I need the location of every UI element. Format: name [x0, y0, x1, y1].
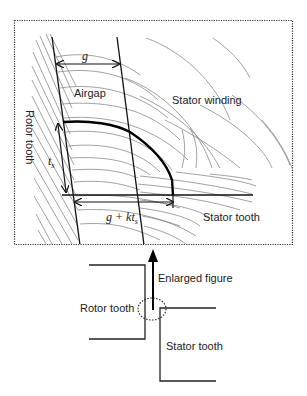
rotor-tooth-label: Rotor tooth — [80, 302, 134, 314]
stator-tooth-label-enlarged: Stator tooth — [203, 211, 260, 223]
ts-symbol-label: ts — [48, 154, 54, 170]
diagram-canvas: g Airgap Stator winding Rotor tooth ts g… — [0, 0, 307, 396]
stator-winding-label: Stator winding — [172, 94, 242, 106]
gap-symbol-label: g — [82, 49, 88, 63]
overview-sketch: Enlarged figure Rotor tooth Stator tooth — [80, 265, 233, 381]
stator-tooth-label: Stator tooth — [166, 340, 223, 352]
rotor-tooth-label-enlarged: Rotor tooth — [24, 110, 36, 164]
enlarged-figure: g Airgap Stator winding Rotor tooth ts g… — [24, 34, 292, 245]
stator-tooth-hatching — [138, 172, 256, 244]
enlarged-figure-label: Enlarged figure — [158, 272, 233, 284]
flux-lines — [56, 38, 292, 240]
extended-gap-label: g + kts — [106, 210, 138, 226]
airgap-label: Airgap — [74, 87, 106, 99]
rotor-tooth-edge — [52, 37, 80, 245]
rotor-tooth-hatching — [32, 34, 78, 244]
enlarge-pointer-arrowhead — [148, 249, 158, 262]
